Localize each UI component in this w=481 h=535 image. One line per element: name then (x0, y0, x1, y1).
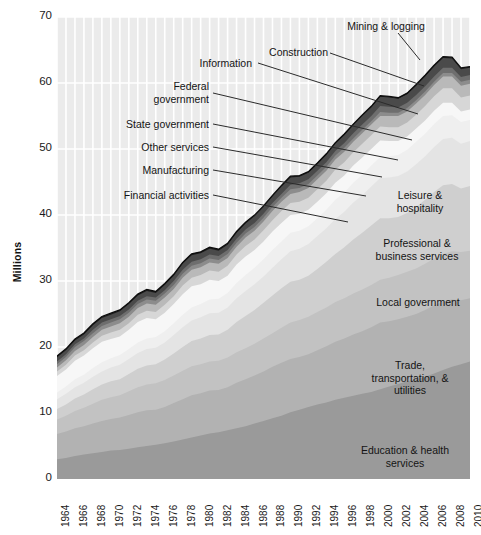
x-tick-label: 2002 (402, 505, 412, 527)
x-tick-label: 1972 (133, 505, 143, 527)
x-tick-label: 1964 (61, 505, 71, 527)
x-tick-label: 1980 (205, 505, 215, 527)
x-tick-label: 2006 (438, 505, 448, 527)
x-tick-label: 1968 (97, 505, 107, 527)
x-tick-label: 1988 (276, 505, 286, 527)
callout-label-state-government: State government (84, 118, 209, 131)
x-tick-label: 1998 (366, 505, 376, 527)
callout-label-financial-activities: Financial activities (74, 189, 209, 202)
x-tick-label: 1982 (223, 505, 233, 527)
stacked-area-chart: Millions 010203040506070 196419661968197… (0, 0, 481, 535)
callout-label-other-services: Other services (100, 141, 209, 154)
x-tick-label: 1966 (79, 505, 89, 527)
x-tick-label: 1990 (294, 505, 304, 527)
x-tick-label: 1992 (312, 505, 322, 527)
x-tick-label: 2008 (456, 505, 466, 527)
callout-label-information: Information (120, 57, 252, 70)
x-tick-label: 2004 (420, 505, 430, 527)
x-tick-label: 1978 (187, 505, 197, 527)
callout-label-mining-logging: Mining & logging (321, 20, 451, 33)
x-tick-label: 1994 (330, 505, 340, 527)
x-tick-label: 2010 (474, 505, 481, 527)
x-tick-label: 1996 (348, 505, 358, 527)
band-label-leisure-hospitality: Leisure & hospitality (368, 189, 472, 214)
x-tick-label: 1970 (115, 505, 125, 527)
band-label-trade-transportation-utilities: Trade, transportation, & utilities (349, 359, 471, 397)
callout-label-manufacturing: Manufacturing (94, 164, 209, 177)
callout-label-federal-government: Federal government (110, 80, 209, 105)
x-tick-label: 1986 (259, 505, 269, 527)
band-label-education-health-services: Education & health services (340, 444, 470, 469)
x-tick-label: 1984 (241, 505, 251, 527)
x-tick-label: 2000 (384, 505, 394, 527)
x-tick-label: 1974 (151, 505, 161, 527)
band-label-local-government: Local government (363, 296, 473, 309)
band-label-professional-business: Professional & business services (360, 237, 474, 262)
x-tick-label: 1976 (169, 505, 179, 527)
